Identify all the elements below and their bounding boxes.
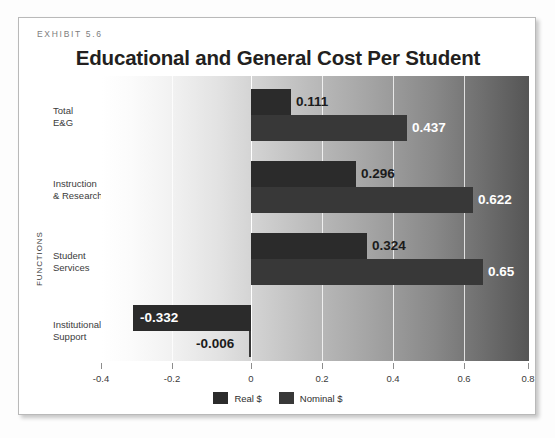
- x-tick-label-0.6: 0.6: [444, 373, 484, 384]
- x-tick-label-0.2: 0.2: [302, 373, 342, 384]
- bar-total-real: [251, 89, 291, 115]
- legend-label-nominal: Nominal $: [300, 393, 343, 404]
- legend-swatch-real-icon: [213, 392, 228, 404]
- value-label-institutional-nominal: -0.006: [196, 331, 234, 357]
- value-label-institutional-real: -0.332: [140, 305, 178, 331]
- legend-item-real: Real $: [213, 392, 261, 404]
- chart-title: Educational and General Cost Per Student: [19, 46, 537, 70]
- x-tick-0: [251, 363, 252, 369]
- legend-swatch-nominal-icon: [279, 392, 294, 404]
- legend-item-nominal: Nominal $: [279, 392, 343, 404]
- gridline-0.6: [464, 76, 465, 361]
- legend-label-real: Real $: [234, 393, 261, 404]
- bar-institutional-nominal: [249, 331, 251, 357]
- value-label-total-real: 0.111: [296, 89, 328, 115]
- bar-instruction-nominal: [251, 187, 473, 213]
- bar-total-nominal: [251, 115, 407, 141]
- chart-legend: Real $ Nominal $: [19, 392, 537, 404]
- exhibit-card: EXHIBIT 5.6 Educational and General Cost…: [18, 17, 536, 415]
- x-tick-label-0.8: 0.8: [508, 373, 548, 384]
- bar-student-real: [251, 233, 367, 259]
- bar-student-nominal: [251, 259, 483, 285]
- x-tick-0.2: [322, 363, 323, 369]
- x-tick-0.6: [464, 363, 465, 369]
- x-tick-0.4: [393, 363, 394, 369]
- y-axis-title: FUNCTIONS: [35, 231, 44, 286]
- value-label-student-nominal: 0.65: [488, 259, 514, 285]
- x-tick--0.4: [101, 363, 102, 369]
- value-label-student-real: 0.324: [372, 233, 406, 259]
- value-label-total-nominal: 0.437: [412, 115, 446, 141]
- x-tick-0.8: [528, 363, 529, 369]
- x-tick-label--0.4: -0.4: [81, 373, 121, 384]
- value-label-instruction-real: 0.296: [361, 161, 395, 187]
- x-tick-label-0.4: 0.4: [373, 373, 413, 384]
- x-tick-label--0.2: -0.2: [152, 373, 192, 384]
- bar-instruction-real: [251, 161, 356, 187]
- exhibit-label: EXHIBIT 5.6: [37, 29, 103, 39]
- x-tick--0.2: [172, 363, 173, 369]
- screenshot-root: EXHIBIT 5.6 Educational and General Cost…: [0, 0, 555, 438]
- value-label-instruction-nominal: 0.622: [478, 187, 512, 213]
- x-tick-label-0: 0: [231, 373, 271, 384]
